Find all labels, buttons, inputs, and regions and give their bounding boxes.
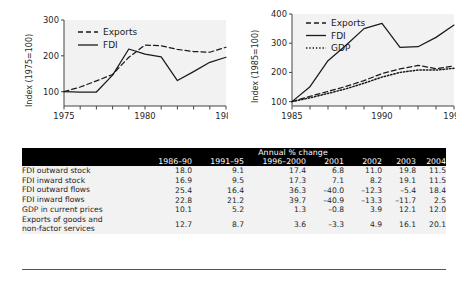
table-span-header-annual-change: Annual % change	[140, 148, 446, 157]
table-row: FDI outward stock18.09.117.46.811.019.81…	[22, 166, 446, 176]
y-tick-label: 100	[43, 87, 59, 97]
table-cell: –5.4	[382, 185, 416, 195]
table-row: FDI outward flows25.416.436.3–40.0–12.3–…	[22, 185, 446, 195]
table-cell: –12.3	[344, 185, 382, 195]
table-cell: 17.4	[244, 166, 306, 176]
table-cell: 6.8	[306, 166, 344, 176]
table-header: Annual % change 1986–90 1991–95 1996–200…	[22, 148, 446, 166]
table-cell: 19.8	[382, 166, 416, 176]
table-cell: 11.5	[416, 176, 446, 186]
table-cell: 12.1	[382, 205, 416, 215]
x-tick-label: 1990	[371, 111, 392, 121]
table-cell: 19.1	[382, 176, 416, 186]
table-cell: 1.3	[244, 205, 306, 215]
table-cell: 8.2	[344, 176, 382, 186]
table-corner-cell	[22, 148, 140, 157]
table-row: FDI inward flows22.821.239.7–40.9–13.3–1…	[22, 195, 446, 205]
table-col-header-2003: 2003	[382, 157, 416, 166]
table-cell: 39.7	[244, 195, 306, 205]
legend-label-exports: Exports	[331, 18, 365, 28]
table-cell: –40.9	[306, 195, 344, 205]
annual-percent-change-table: Annual % change 1986–90 1991–95 1996–200…	[22, 148, 446, 234]
table-cell: 4.9	[344, 215, 382, 234]
table-row-label: FDI outward flows	[22, 185, 140, 195]
table-cell: 25.4	[140, 185, 192, 195]
table-row-label: Exports of goods and non-factor services	[22, 215, 140, 234]
plot-background	[292, 14, 454, 106]
y-tick-label: 100	[271, 97, 287, 107]
table-column-header-row: 1986–90 1991–95 1996–2000 2001 2002 2003…	[22, 157, 446, 166]
table-cell: 7.1	[306, 176, 344, 186]
table-row: FDI inward stock16.99.517.37.18.219.111.…	[22, 176, 446, 186]
charts-row: Index (1975=100) 100200300197519801985Ex…	[0, 0, 464, 146]
table-cell: 11.0	[344, 166, 382, 176]
plot-background	[64, 20, 226, 106]
table-cell: 17.3	[244, 176, 306, 186]
table-cell: –0.8	[306, 205, 344, 215]
chart-right-1985-index: Index (1985=100) 10020030040019851990199…	[238, 0, 464, 146]
table-col-header-1986-90: 1986–90	[140, 157, 192, 166]
table-cell: 9.5	[192, 176, 244, 186]
x-tick-label: 1975	[53, 111, 74, 121]
chart-right-y-axis-label: Index (1985=100)	[248, 10, 262, 122]
table-row-label: FDI inward stock	[22, 176, 140, 186]
table-cell: 10.1	[140, 205, 192, 215]
table-cell: 16.1	[382, 215, 416, 234]
table-cell: –40.0	[306, 185, 344, 195]
table-cell: 36.3	[244, 185, 306, 195]
y-tick-label: 200	[271, 67, 287, 77]
y-tick-label: 200	[43, 51, 59, 61]
table-cell: 11.5	[416, 166, 446, 176]
chart-left-y-axis-label: Index (1975=100)	[22, 14, 36, 126]
y-tick-label: 400	[271, 10, 287, 19]
table-row-label: FDI inward flows	[22, 195, 140, 205]
table-rowlabel-header	[22, 157, 140, 166]
table-cell: –3.3	[306, 215, 344, 234]
chart-left-1975-index: Index (1975=100) 100200300197519801985Ex…	[8, 0, 236, 146]
chart-right-plot-area: 100200300400198519901994ExportsFDIGDP	[266, 10, 456, 126]
table-cell: 16.4	[192, 185, 244, 195]
table-col-header-1996-2000: 1996–2000	[244, 157, 306, 166]
table-cell: –13.3	[344, 195, 382, 205]
table-body: FDI outward stock18.09.117.46.811.019.81…	[22, 166, 446, 234]
chart-left-svg: 100200300197519801985ExportsFDI	[38, 16, 228, 126]
table-cell: 2.5	[416, 195, 446, 205]
chart-left-plot-area: 100200300197519801985ExportsFDI	[38, 16, 228, 126]
table-row-label: GDP in current prices	[22, 205, 140, 215]
table-cell: 18.4	[416, 185, 446, 195]
table-cell: 5.2	[192, 205, 244, 215]
table-cell: 12.7	[140, 215, 192, 234]
legend-label-fdi: FDI	[103, 40, 118, 50]
legend-label-fdi: FDI	[331, 31, 346, 41]
table-cell: 22.8	[140, 195, 192, 205]
table-cell: 8.7	[192, 215, 244, 234]
chart-right-svg: 100200300400198519901994ExportsFDIGDP	[266, 10, 456, 126]
table-span-header-row: Annual % change	[22, 148, 446, 157]
table-row-label: FDI outward stock	[22, 166, 140, 176]
x-tick-label: 1985	[281, 111, 302, 121]
y-tick-label: 300	[43, 16, 59, 25]
table-cell: 16.9	[140, 176, 192, 186]
table-cell: –11.7	[382, 195, 416, 205]
table-cell: 3.6	[244, 215, 306, 234]
table-cell: 21.2	[192, 195, 244, 205]
x-tick-label: 1980	[134, 111, 155, 121]
table-cell: 12.0	[416, 205, 446, 215]
table-col-header-2001: 2001	[306, 157, 344, 166]
table-cell: 18.0	[140, 166, 192, 176]
x-tick-label: 1985	[215, 111, 228, 121]
legend-label-gdp: GDP	[331, 43, 351, 53]
table-cell: 3.9	[344, 205, 382, 215]
table-col-header-1991-95: 1991–95	[192, 157, 244, 166]
table-cell: 9.1	[192, 166, 244, 176]
table-cell: 20.1	[416, 215, 446, 234]
table-col-header-2004: 2004	[416, 157, 446, 166]
table-row: GDP in current prices10.15.21.3–0.83.912…	[22, 205, 446, 215]
table-col-header-2002: 2002	[344, 157, 382, 166]
legend-label-exports: Exports	[103, 27, 137, 37]
x-tick-label: 1994	[443, 111, 456, 121]
y-tick-label: 300	[271, 38, 287, 48]
table-row: Exports of goods and non-factor services…	[22, 215, 446, 234]
